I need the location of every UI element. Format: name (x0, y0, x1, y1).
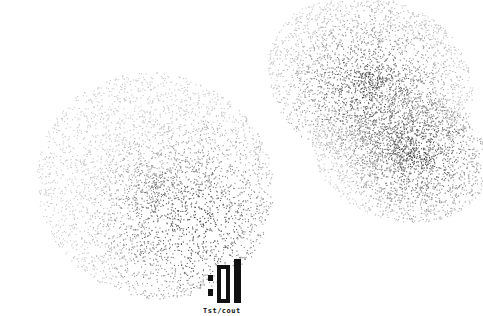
bottom-right-cloud (312, 88, 483, 223)
caption-text: Tst/cout (203, 307, 241, 315)
top-right-cloud (268, 0, 473, 168)
label-01-glyph (206, 257, 266, 303)
